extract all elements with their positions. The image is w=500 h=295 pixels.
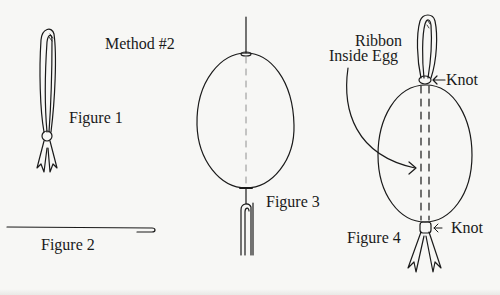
knot-top-label: Knot <box>446 72 478 88</box>
knot-bottom-label: Knot <box>451 220 483 236</box>
needle-figure-2-icon <box>7 227 155 232</box>
diagram-canvas: Method #2 Figure 1 Figure 2 Figure 3 Fig… <box>0 0 500 295</box>
figure-4-label: Figure 4 <box>347 230 401 246</box>
egg-figure-3-icon <box>197 17 294 255</box>
page-edge-shadow <box>0 289 500 295</box>
diagram-title: Method #2 <box>105 36 175 52</box>
figure-2-label: Figure 2 <box>41 237 95 253</box>
figure-1-label: Figure 1 <box>69 110 123 126</box>
ribbon-loop-figure-1-icon <box>37 29 57 172</box>
ribbon-inside-label-line2: Inside Egg <box>329 48 398 64</box>
figure-3-label: Figure 3 <box>266 194 320 210</box>
